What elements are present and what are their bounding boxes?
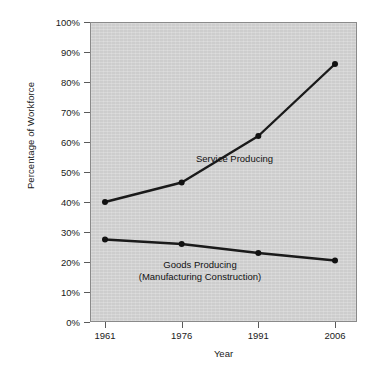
y-tick-label: 50% xyxy=(36,167,80,178)
x-tick-label: 1961 xyxy=(75,330,135,341)
series-label-goods: Goods Producing (Manufacturing Construct… xyxy=(100,259,300,283)
x-tick-mark xyxy=(258,322,259,328)
y-tick-mark xyxy=(84,292,90,293)
x-tick-label: 1991 xyxy=(228,330,288,341)
y-tick-mark xyxy=(84,22,90,23)
y-tick-label: 80% xyxy=(36,77,80,88)
y-tick-label: 100% xyxy=(36,17,80,28)
y-tick-mark xyxy=(84,322,90,323)
series-label-goods-line1: Goods Producing xyxy=(100,259,300,271)
y-tick-mark xyxy=(84,112,90,113)
x-tick-label: 2006 xyxy=(305,330,365,341)
y-tick-mark xyxy=(84,202,90,203)
y-tick-mark xyxy=(84,172,90,173)
line-chart: Percentage of Workforce 0%10%20%30%40%50… xyxy=(0,0,372,371)
y-tick-mark xyxy=(84,82,90,83)
y-tick-label: 20% xyxy=(36,257,80,268)
y-tick-mark xyxy=(84,142,90,143)
y-tick-mark xyxy=(84,52,90,53)
y-tick-label: 0% xyxy=(36,317,80,328)
y-tick-label: 90% xyxy=(36,47,80,58)
y-tick-mark xyxy=(84,232,90,233)
x-tick-mark xyxy=(105,322,106,328)
series-label-service: Service Producing xyxy=(196,153,273,165)
x-tick-label: 1976 xyxy=(152,330,212,341)
y-tick-label: 70% xyxy=(36,107,80,118)
x-tick-mark xyxy=(335,322,336,328)
series-label-goods-line2: (Manufacturing Construction) xyxy=(100,271,300,283)
y-tick-label: 60% xyxy=(36,137,80,148)
x-tick-mark xyxy=(182,322,183,328)
y-axis-tick-labels: 0%10%20%30%40%50%60%70%80%90%100% xyxy=(32,0,80,371)
y-tick-mark xyxy=(84,262,90,263)
y-tick-label: 30% xyxy=(36,227,80,238)
x-axis-title: Year xyxy=(90,348,357,359)
y-tick-label: 40% xyxy=(36,197,80,208)
y-tick-label: 10% xyxy=(36,287,80,298)
